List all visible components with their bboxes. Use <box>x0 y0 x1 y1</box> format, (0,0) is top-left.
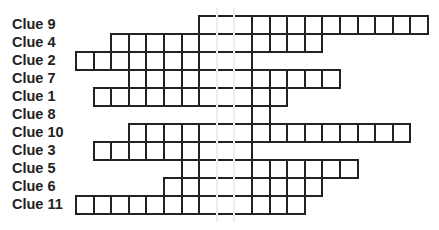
answer-cell[interactable] <box>145 69 165 89</box>
answer-cell[interactable] <box>145 87 165 107</box>
answer-cell[interactable] <box>145 33 165 53</box>
answer-cell[interactable] <box>286 15 306 35</box>
clue-label: Clue 11 <box>12 195 63 213</box>
clue-label: Clue 5 <box>12 159 56 177</box>
answer-cell[interactable] <box>286 159 306 179</box>
answer-cell[interactable] <box>198 15 218 35</box>
answer-cell[interactable] <box>198 87 218 107</box>
answer-cell[interactable] <box>233 15 253 35</box>
answer-cell[interactable] <box>339 159 359 179</box>
answer-cell[interactable] <box>339 123 359 143</box>
answer-cell[interactable] <box>321 159 341 179</box>
answer-cell[interactable] <box>145 123 165 143</box>
answer-cell[interactable] <box>251 33 271 53</box>
answer-cell[interactable] <box>339 15 359 35</box>
answer-cell[interactable] <box>75 51 95 71</box>
answer-cell[interactable] <box>286 123 306 143</box>
answer-cell[interactable] <box>163 69 183 89</box>
answer-cell[interactable] <box>251 69 271 89</box>
answer-cell[interactable] <box>251 123 271 143</box>
answer-cell[interactable] <box>251 177 271 197</box>
answer-cell[interactable] <box>198 33 218 53</box>
answer-cell[interactable] <box>198 51 218 71</box>
answer-cell[interactable] <box>163 195 183 215</box>
clue-label: Clue 3 <box>12 141 56 159</box>
answer-cell[interactable] <box>163 123 183 143</box>
answer-cell[interactable] <box>233 87 253 107</box>
answer-cell[interactable] <box>251 159 271 179</box>
clue-label: Clue 7 <box>12 69 56 87</box>
answer-cell[interactable] <box>233 141 253 161</box>
answer-cell[interactable] <box>304 33 323 53</box>
answer-cell[interactable] <box>374 123 394 143</box>
answer-cell[interactable] <box>286 195 306 215</box>
answer-cell[interactable] <box>374 15 394 35</box>
answer-cell[interactable] <box>269 87 288 107</box>
answer-cell[interactable] <box>233 177 253 197</box>
answer-cell[interactable] <box>163 33 183 53</box>
answer-cell[interactable] <box>251 15 271 35</box>
answer-cell[interactable] <box>110 33 130 53</box>
clue-label: Clue 4 <box>12 33 56 51</box>
clue-label: Clue 10 <box>12 123 64 141</box>
answer-cell[interactable] <box>233 195 253 215</box>
clue-label: Clue 2 <box>12 51 56 69</box>
answer-cell[interactable] <box>392 123 411 143</box>
answer-cell[interactable] <box>251 105 271 125</box>
answer-cell[interactable] <box>110 87 130 107</box>
clue-label: Clue 8 <box>12 105 56 123</box>
answer-cell[interactable] <box>233 33 253 53</box>
answer-cell[interactable] <box>145 195 165 215</box>
answer-cell[interactable] <box>233 159 253 179</box>
clue-label: Clue 1 <box>12 87 56 105</box>
answer-cell[interactable] <box>233 105 253 125</box>
answer-cell[interactable] <box>110 51 130 71</box>
answer-cell[interactable] <box>198 141 218 161</box>
answer-cell[interactable] <box>286 33 306 53</box>
answer-cell[interactable] <box>409 15 429 35</box>
clue-label: Clue 9 <box>12 15 56 33</box>
answer-cell[interactable] <box>198 123 218 143</box>
answer-cell[interactable] <box>304 177 323 197</box>
answer-cell[interactable] <box>163 177 183 197</box>
answer-cell[interactable] <box>110 141 130 161</box>
answer-cell[interactable] <box>145 141 165 161</box>
answer-cell[interactable] <box>321 69 341 89</box>
answer-cell[interactable] <box>233 123 253 143</box>
highlight-column-divider <box>216 8 218 222</box>
answer-cell[interactable] <box>198 195 218 215</box>
answer-cell[interactable] <box>233 69 253 89</box>
answer-cell[interactable] <box>163 87 183 107</box>
answer-cell[interactable] <box>75 195 95 215</box>
answer-cell[interactable] <box>321 15 341 35</box>
answer-cell[interactable] <box>163 141 183 161</box>
answer-cell[interactable] <box>198 177 218 197</box>
clue-label: Clue 6 <box>12 177 56 195</box>
answer-cell[interactable] <box>145 51 165 71</box>
highlight-column-divider <box>233 8 235 222</box>
answer-cell[interactable] <box>198 159 218 179</box>
answer-cell[interactable] <box>233 51 253 71</box>
answer-cell[interactable] <box>286 69 306 89</box>
answer-cell[interactable] <box>286 177 306 197</box>
answer-cell[interactable] <box>251 87 271 107</box>
answer-cell[interactable] <box>321 123 341 143</box>
answer-cell[interactable] <box>163 51 183 71</box>
answer-cell[interactable] <box>198 69 218 89</box>
answer-cell[interactable] <box>251 195 271 215</box>
answer-cell[interactable] <box>110 195 130 215</box>
